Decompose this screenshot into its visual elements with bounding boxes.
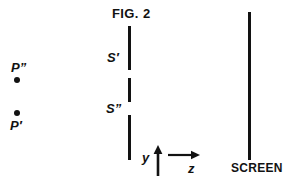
barrier-segment-middle xyxy=(128,78,131,102)
lower-source-point xyxy=(14,110,20,116)
upper-source-label: P” xyxy=(11,61,26,74)
screen-label: SCREEN xyxy=(231,162,283,174)
figure-canvas: FIG. 2 P” P′ S′ S” y z SCREEN xyxy=(0,0,287,189)
coordinate-axes xyxy=(150,143,206,177)
upper-source-point xyxy=(14,77,20,83)
y-axis-arrow xyxy=(154,145,163,176)
slit-upper-label: S′ xyxy=(107,51,119,64)
z-axis-label: z xyxy=(188,162,195,175)
lower-source-label: P′ xyxy=(10,119,22,132)
figure-title: FIG. 2 xyxy=(112,7,151,20)
y-axis-label: y xyxy=(142,151,149,164)
barrier-segment-top xyxy=(128,26,131,70)
barrier-segment-bottom xyxy=(128,115,131,160)
z-axis-arrow xyxy=(168,151,200,159)
slit-lower-label: S” xyxy=(106,102,121,115)
screen-line xyxy=(248,12,251,160)
